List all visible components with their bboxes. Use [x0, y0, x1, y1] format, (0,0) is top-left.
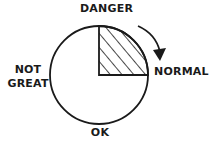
label-normal: NORMAL	[154, 66, 206, 78]
clockwise-arrow-icon	[138, 26, 160, 52]
gauge-diagram: DANGER NORMAL OK NOT GREAT	[0, 0, 221, 156]
label-not: NOT	[6, 63, 50, 77]
label-great: GREAT	[6, 77, 50, 91]
label-ok: OK	[88, 127, 112, 139]
arrowhead-icon	[153, 48, 166, 61]
label-danger: DANGER	[80, 3, 130, 15]
label-not-great: NOT GREAT	[6, 63, 50, 91]
danger-sector	[99, 26, 148, 75]
